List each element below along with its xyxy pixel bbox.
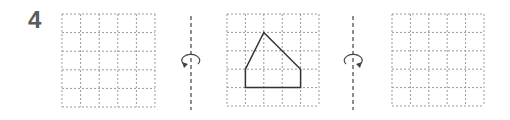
exercise-figure <box>0 0 510 120</box>
pentagon-shape <box>245 32 300 87</box>
arrowhead-icon <box>182 62 188 68</box>
arrowhead-icon <box>356 62 362 68</box>
